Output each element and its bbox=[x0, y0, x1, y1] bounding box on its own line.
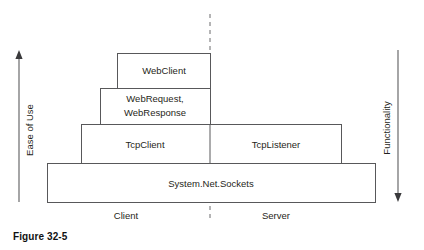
webclient-label: WebClient bbox=[142, 65, 186, 76]
webrequest-label-line-1: WebRequest, bbox=[126, 93, 183, 104]
zone-label-client: Client bbox=[114, 210, 139, 221]
functionality-axis-label: Functionality bbox=[381, 101, 392, 155]
figure-container: Ease of Use Functionality System.Net.Soc… bbox=[0, 0, 424, 250]
tcpclient-label: TcpClient bbox=[125, 139, 164, 150]
tcp-layer-box[interactable] bbox=[82, 125, 342, 164]
arrow-up-icon bbox=[15, 50, 22, 59]
system-net-sockets-label: System.Net.Sockets bbox=[168, 178, 254, 189]
zone-label-server: Server bbox=[262, 210, 290, 221]
layer-webrequest-webresponse[interactable]: WebRequest, WebResponse bbox=[101, 89, 211, 125]
ease-of-use-axis-label: Ease of Use bbox=[24, 104, 35, 156]
layer-tcp[interactable]: TcpClient TcpListener bbox=[82, 125, 342, 164]
pyramid-diagram: Ease of Use Functionality System.Net.Soc… bbox=[0, 0, 424, 250]
ease-of-use-axis: Ease of Use bbox=[15, 50, 34, 202]
layer-system-net-sockets[interactable]: System.Net.Sockets bbox=[48, 164, 376, 203]
tcplistener-label: TcpListener bbox=[252, 139, 301, 150]
figure-caption: Figure 32-5 bbox=[13, 231, 67, 242]
webrequest-label-line-2: WebResponse bbox=[124, 107, 186, 118]
arrow-down-icon bbox=[394, 193, 401, 202]
functionality-axis: Functionality bbox=[381, 50, 402, 202]
layer-webclient[interactable]: WebClient bbox=[118, 54, 211, 89]
